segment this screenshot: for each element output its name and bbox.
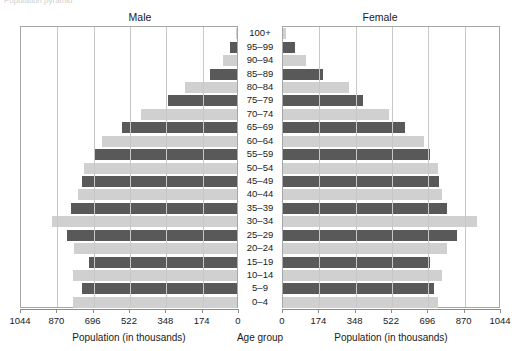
female-axis-title: Population (in thousands) (334, 332, 447, 344)
male-panel-header: Male (60, 11, 220, 23)
bar-male-45_49 (82, 176, 237, 187)
bar-female-5_9 (283, 283, 434, 294)
female-bars-layer (283, 27, 499, 307)
bar-male-80_84 (185, 82, 237, 93)
age-group-label-65_69: 65–69 (238, 121, 282, 132)
bar-male-10_14 (73, 270, 237, 281)
bar-female-45_49 (283, 176, 439, 187)
age-group-label-45_49: 45–49 (238, 175, 282, 186)
female-plot-area (282, 26, 500, 308)
gridline-female-870 (465, 27, 466, 307)
bar-male-65_69 (122, 122, 237, 133)
male-axis-522-label: 522 (121, 315, 137, 326)
bar-male-60_64 (102, 136, 237, 147)
male-axis-348-label: 348 (157, 315, 173, 326)
male-axis-1044-tick (20, 309, 21, 313)
bar-male-25_29 (67, 230, 237, 241)
male-plot-area (20, 26, 238, 308)
female-axis-0-label: 0 (279, 315, 284, 326)
female-axis-522-label: 522 (383, 315, 399, 326)
female-axis-348-tick (355, 309, 356, 313)
age-group-label-100+: 100+ (238, 27, 282, 38)
chart-title-clipped: Population pyramid (4, 0, 304, 5)
male-axis-0-label: 0 (235, 315, 240, 326)
male-axis-348-tick (165, 309, 166, 313)
bar-female-40_44 (283, 189, 442, 200)
bar-female-0_4 (283, 297, 438, 308)
age-group-label-80_84: 80–84 (238, 81, 282, 92)
age-group-label-50_54: 50–54 (238, 162, 282, 173)
bar-female-80_84 (283, 82, 349, 93)
bar-female-90_94 (283, 55, 306, 66)
male-axis-174-tick (202, 309, 203, 313)
bar-male-100+ (236, 28, 237, 39)
male-axis-696-tick (93, 309, 94, 313)
bar-female-35_39 (283, 203, 447, 214)
male-axis-696-label: 696 (85, 315, 101, 326)
age-group-label-30_34: 30–34 (238, 215, 282, 226)
bar-male-40_44 (78, 189, 237, 200)
age-group-label-25_29: 25–29 (238, 229, 282, 240)
population-pyramid-chart: Population pyramid Male Female 100+95–99… (0, 0, 519, 351)
bar-female-20_24 (283, 243, 447, 254)
male-axis-0-tick (238, 309, 239, 313)
bar-male-0_4 (73, 297, 237, 308)
bar-female-30_34 (283, 216, 477, 227)
gridline-male-348 (166, 27, 167, 307)
age-group-label-10_14: 10–14 (238, 269, 282, 280)
female-axis-174-tick (318, 309, 319, 313)
male-bars-layer (21, 27, 237, 307)
gridline-male-870 (57, 27, 58, 307)
female-axis-870-tick (464, 309, 465, 313)
gridline-female-174 (319, 27, 320, 307)
gridline-female-522 (392, 27, 393, 307)
male-axis-870-tick (56, 309, 57, 313)
female-axis-174-label: 174 (310, 315, 326, 326)
age-group-label-60_64: 60–64 (238, 135, 282, 146)
gridline-male-696 (94, 27, 95, 307)
age-group-label-35_39: 35–39 (238, 202, 282, 213)
age-group-label-15_19: 15–19 (238, 256, 282, 267)
female-axis-1044-label: 1044 (489, 315, 510, 326)
bar-female-70_74 (283, 109, 389, 120)
age-group-label-70_74: 70–74 (238, 108, 282, 119)
bar-female-10_14 (283, 270, 442, 281)
age-group-label-5_9: 5–9 (238, 282, 282, 293)
bar-male-15_19 (89, 257, 237, 268)
bar-female-50_54 (283, 163, 438, 174)
bar-male-30_34 (52, 216, 237, 227)
gridline-female-348 (356, 27, 357, 307)
female-axis-348-label: 348 (347, 315, 363, 326)
female-axis-1044-tick (500, 309, 501, 313)
age-group-label-85_89: 85–89 (238, 68, 282, 79)
bar-female-100+ (283, 28, 286, 39)
female-panel-header: Female (300, 11, 460, 23)
female-axis-0-tick (282, 309, 283, 313)
male-axis-522-tick (129, 309, 130, 313)
bar-male-90_94 (223, 55, 237, 66)
age-group-label-column: 100+95–9990–9485–8980–8475–7970–7465–696… (238, 26, 282, 308)
age-group-label-40_44: 40–44 (238, 188, 282, 199)
male-axis-title: Population (in thousands) (72, 332, 185, 344)
gridline-male-522 (130, 27, 131, 307)
bar-male-85_89 (210, 69, 237, 80)
age-group-label-90_94: 90–94 (238, 54, 282, 65)
age-group-label-95_99: 95–99 (238, 41, 282, 52)
gridline-female-696 (428, 27, 429, 307)
bar-female-75_79 (283, 95, 363, 106)
male-axis-174-label: 174 (194, 315, 210, 326)
female-axis-522-tick (391, 309, 392, 313)
male-axis-870-label: 870 (48, 315, 64, 326)
bar-male-50_54 (84, 163, 237, 174)
female-axis-696-tick (427, 309, 428, 313)
female-axis-870-label: 870 (456, 315, 472, 326)
male-axis-1044-label: 1044 (9, 315, 30, 326)
age-group-label-55_59: 55–59 (238, 148, 282, 159)
age-group-label-75_79: 75–79 (238, 94, 282, 105)
bar-female-85_89 (283, 69, 323, 80)
bar-female-95_99 (283, 42, 295, 53)
bar-female-25_29 (283, 230, 457, 241)
bar-male-70_74 (141, 109, 237, 120)
bar-male-20_24 (74, 243, 237, 254)
center-axis-title: Age group (237, 332, 283, 344)
